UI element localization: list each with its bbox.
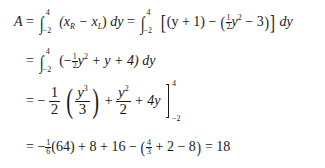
evaluation-bracket: 4−2 <box>164 84 178 118</box>
integral-limits: 4−2 <box>46 12 56 32</box>
plus-sign: + <box>105 93 116 108</box>
paren-close: ) <box>196 139 201 156</box>
expression-part1: (64) + 8 + 16 − <box>51 139 140 154</box>
equals-sign-2: = <box>127 14 138 29</box>
equals-sign: = <box>26 53 34 68</box>
expression-term: (y + 1) − <box>167 14 220 29</box>
fraction-y-sq-over-2: y22 <box>116 85 131 118</box>
equation-line-3: = − 12 (y33) + y22 + 4y 4−2 <box>26 84 178 118</box>
fraction-one-half: 12 <box>49 85 61 118</box>
integral-limits: 4−2 <box>46 51 56 71</box>
paren-close: ) <box>264 14 269 31</box>
result: = 18 <box>201 139 230 154</box>
minus-three: − 3 <box>242 14 264 29</box>
equation-line-2: = ∫4−2 (−12y2 + y + 4) dy <box>26 51 155 72</box>
expression-rest: + 4y <box>134 93 160 108</box>
integral-limits-2: 4−2 <box>147 12 157 32</box>
differential: dy <box>276 14 293 29</box>
expression-rest: + y + 4) <box>88 53 139 68</box>
integrand: (xR − xL) dy <box>59 14 123 29</box>
differential: dy <box>139 53 156 68</box>
bracket-close: ] <box>270 12 275 32</box>
big-paren-close: ) <box>92 84 99 118</box>
paren-open: ( <box>220 14 225 31</box>
area-variable: A <box>14 14 23 29</box>
equation-line-1: A = ∫4−2 (xR − xL) dy = ∫4−2 [(y + 1) − … <box>14 12 293 33</box>
equals-sign: = <box>26 14 34 29</box>
paren-open-neg: (− <box>59 53 72 68</box>
bracket-open: [ <box>161 12 166 32</box>
fraction-y-cubed-over-3: y33 <box>75 85 90 118</box>
equals-neg: = − <box>26 139 45 154</box>
equals-neg: = − <box>26 93 45 108</box>
big-paren-open: ( <box>66 84 73 118</box>
expression-part2: + 2 − 8 <box>152 139 196 154</box>
equation-line-4: = −16(64) + 8 + 16 − (43 + 2 − 8) = 18 <box>26 139 230 156</box>
paren-open: ( <box>141 139 146 156</box>
